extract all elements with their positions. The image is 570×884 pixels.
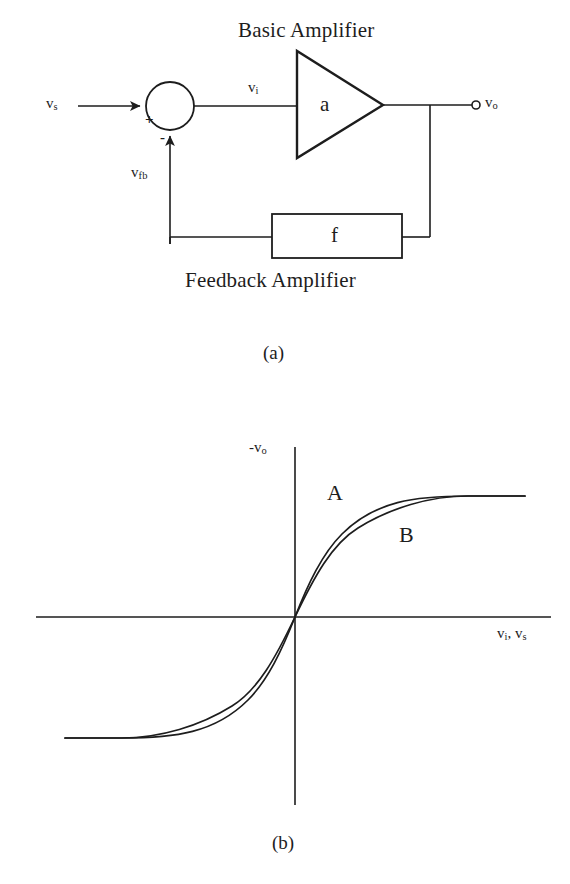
transfer-characteristic-panel-b	[36, 447, 551, 805]
feedback-signal-base: v	[131, 164, 139, 180]
curve-a-label: A	[327, 482, 343, 504]
input-signal-base: v	[248, 79, 256, 95]
feedback-amplifier-title: Feedback Amplifier	[185, 270, 356, 291]
summing-plus-sign: +	[145, 112, 154, 127]
output-signal-subscript: o	[493, 100, 498, 111]
x-axis-label: vi, vs	[497, 626, 527, 643]
caption-a: (a)	[263, 343, 284, 362]
figure-vector-graphics	[0, 0, 570, 884]
source-signal-label: vs	[46, 96, 58, 113]
source-signal-base: v	[46, 95, 54, 111]
y-axis-label: -vo	[249, 440, 267, 457]
y-axis-label-subscript: o	[262, 445, 267, 456]
feedback-amplifier-figure: Basic Amplifier vs + - vi a vo vfb f Fee…	[0, 0, 570, 884]
y-axis-label-base: -v	[249, 439, 262, 455]
x-axis-label-base-1: v	[497, 625, 505, 641]
x-axis-label-separator: ,	[507, 625, 511, 641]
output-terminal-node	[472, 101, 480, 109]
feedback-signal-label: vfb	[131, 165, 148, 182]
feedback-signal-subscript: fb	[139, 170, 148, 181]
caption-b: (b)	[272, 833, 294, 852]
block-diagram-panel-a	[78, 51, 480, 258]
basic-amplifier-triangle	[297, 51, 383, 158]
input-signal-label: vi	[248, 80, 259, 97]
input-signal-subscript: i	[256, 85, 259, 96]
amplifier-gain-label: a	[320, 94, 329, 115]
summing-minus-sign: -	[160, 130, 165, 145]
x-axis-label-subscript-2: s	[522, 631, 526, 642]
source-signal-subscript: s	[54, 101, 58, 112]
curve-b-label: B	[399, 524, 414, 546]
basic-amplifier-title: Basic Amplifier	[238, 20, 375, 41]
output-signal-label: vo	[485, 95, 498, 112]
output-signal-base: v	[485, 94, 493, 110]
feedback-block-label: f	[331, 225, 338, 246]
